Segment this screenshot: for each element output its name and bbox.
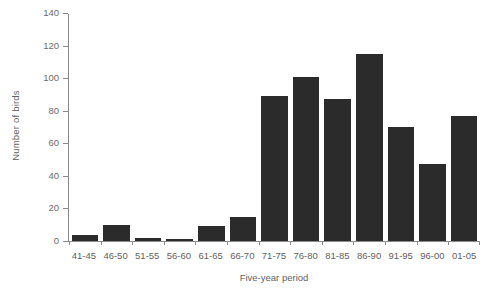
bar — [324, 99, 351, 241]
bar-chart-figure: Number of birds 020406080100120140 41-45… — [0, 0, 489, 298]
x-axis-tick — [195, 241, 196, 245]
y-axis-tick-label: 140 — [43, 7, 59, 18]
x-axis-tick-label: 81-85 — [322, 250, 354, 266]
y-axis-tick: 100 — [63, 78, 68, 79]
bar-slot — [417, 14, 449, 241]
x-axis-tick — [290, 241, 291, 245]
y-axis-title-text: Number of birds — [10, 90, 21, 161]
x-axis-tick — [353, 241, 354, 245]
x-axis-tick-label: 51-55 — [131, 250, 163, 266]
y-axis-tick: 20 — [63, 208, 68, 209]
bar — [166, 239, 193, 241]
bar-slot — [227, 14, 259, 241]
x-axis-tick — [259, 241, 260, 245]
bar-slot — [385, 14, 417, 241]
x-axis-tick — [385, 241, 386, 245]
bar — [135, 238, 162, 241]
x-axis-line — [68, 241, 480, 242]
bar — [230, 217, 257, 241]
x-axis-tick-label: 76-80 — [290, 250, 322, 266]
bar — [388, 127, 415, 241]
bar — [293, 77, 320, 241]
y-axis-tick-label: 100 — [43, 72, 59, 83]
y-axis-title: Number of birds — [4, 0, 26, 250]
y-axis-tick-label: 60 — [48, 137, 59, 148]
y-axis-tick: 80 — [63, 111, 68, 112]
bar — [356, 54, 383, 241]
y-axis-tick-label: 20 — [48, 202, 59, 213]
y-axis-tick: 120 — [63, 46, 68, 47]
x-axis-tick-labels: 41-4546-5051-5556-6061-6566-7071-7576-80… — [68, 250, 480, 266]
bar-slot — [69, 14, 101, 241]
plot-area: 020406080100120140 — [68, 14, 480, 242]
x-axis-tick — [479, 241, 480, 245]
y-axis-tick: 40 — [63, 176, 68, 177]
x-axis-tick-label: 56-60 — [163, 250, 195, 266]
y-axis-tick-label: 0 — [54, 235, 59, 246]
x-axis-tick-label: 61-65 — [195, 250, 227, 266]
bar-slot — [132, 14, 164, 241]
x-axis-tick — [322, 241, 323, 245]
x-axis-tick-label: 41-45 — [68, 250, 100, 266]
x-axis-tick — [164, 241, 165, 245]
bar-slot — [322, 14, 354, 241]
x-axis-tick — [69, 241, 70, 245]
bar-slot — [290, 14, 322, 241]
y-axis-tick: 60 — [63, 143, 68, 144]
x-axis-tick-label: 96-00 — [417, 250, 449, 266]
bar-slot — [448, 14, 480, 241]
bar-slot — [164, 14, 196, 241]
x-axis-tick-label: 91-95 — [385, 250, 417, 266]
x-axis-tick-label: 66-70 — [226, 250, 258, 266]
x-axis-tick-label: 86-90 — [353, 250, 385, 266]
x-axis-tick-label: 71-75 — [258, 250, 290, 266]
bar-slot — [195, 14, 227, 241]
bar-series — [69, 14, 480, 241]
y-axis-tick-label: 40 — [48, 170, 59, 181]
x-axis-tick — [101, 241, 102, 245]
bar — [72, 235, 99, 242]
bar — [198, 226, 225, 241]
bar — [103, 225, 130, 241]
y-axis-tick: 140 — [63, 13, 68, 14]
bar-slot — [101, 14, 133, 241]
x-axis-tick — [132, 241, 133, 245]
x-axis-title: Five-year period — [68, 272, 480, 283]
bar — [451, 116, 478, 241]
y-axis-tick-label: 80 — [48, 105, 59, 116]
x-axis-tick — [417, 241, 418, 245]
bar — [419, 164, 446, 241]
x-axis-tick — [227, 241, 228, 245]
bar — [261, 96, 288, 241]
x-axis-tick — [448, 241, 449, 245]
x-axis-tick-label: 01-05 — [448, 250, 480, 266]
bar-slot — [259, 14, 291, 241]
y-axis-tick: 0 — [63, 241, 68, 242]
y-axis-tick-label: 120 — [43, 40, 59, 51]
bar-slot — [353, 14, 385, 241]
x-axis-tick-label: 46-50 — [100, 250, 132, 266]
